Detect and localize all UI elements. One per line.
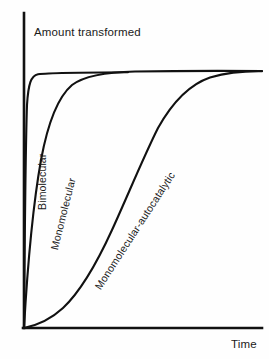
- kinetics-curve-figure: Amount transformed Time Bimolecular Mono…: [0, 0, 269, 359]
- y-axis-title: Amount transformed: [34, 26, 141, 38]
- x-axis-title: Time: [231, 338, 257, 350]
- curve-label-bimolecular: Bimolecular: [36, 153, 48, 210]
